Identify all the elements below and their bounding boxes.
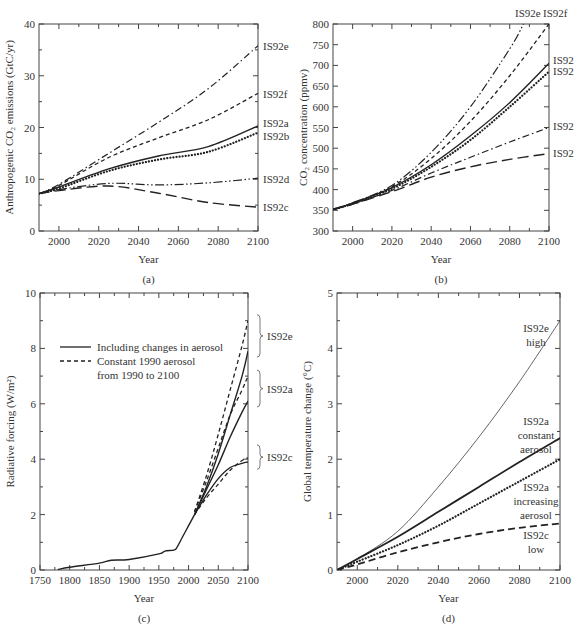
x-tick-label: 2000 [342, 235, 365, 247]
series-annotation: IS92a [523, 415, 549, 427]
x-tick-label: 2100 [549, 574, 572, 586]
x-tick-label: 2040 [420, 235, 443, 247]
panel-a-emissions-chart: 010203040200020202040206020802100Year(a)… [3, 18, 290, 286]
panel-c-radiative-forcing-chart: 024681017501800185019001950200020502100Y… [4, 287, 293, 625]
y-tick-label: 650 [313, 80, 330, 92]
y-axis-label: Anthropogenic CO₂ emissions (GtC/yr) [3, 40, 16, 215]
plot-frame [40, 293, 248, 570]
series-line-is92e [39, 46, 258, 194]
series-label: IS92 [553, 120, 574, 132]
series-label: IS92 [553, 147, 574, 159]
brace-icon [257, 445, 263, 469]
y-tick-label: 40 [24, 18, 36, 30]
x-tick-label: 2040 [128, 235, 151, 247]
y-tick-label: 30 [24, 70, 36, 82]
x-tick-label: 2100 [538, 235, 561, 247]
x-axis-label: Year [134, 592, 155, 604]
series-line-is92b [333, 72, 549, 210]
series-label: IS92f [543, 7, 568, 19]
y-tick-label: 600 [313, 101, 330, 113]
x-tick-label: 2000 [48, 235, 71, 247]
x-tick-label: 1950 [148, 574, 171, 586]
x-tick-label: 1750 [29, 574, 52, 586]
panel-d-temperature-chart: 012345200020202040206020802100Year(d)Glo… [301, 287, 572, 625]
series-line-is92e [333, 24, 523, 209]
series-line-is92d [333, 128, 549, 210]
series-line-is92c [333, 154, 549, 210]
x-tick-label: 2020 [88, 235, 111, 247]
series-label: IS92b [263, 130, 290, 142]
series-line-is92f [39, 93, 258, 193]
x-axis-label: Year [431, 253, 452, 265]
y-tick-label: 700 [313, 59, 330, 71]
y-tick-label: 2 [31, 509, 37, 521]
y-tick-label: 8 [31, 342, 37, 354]
series-label: IS92e [263, 40, 289, 52]
series-line-historical [58, 515, 195, 570]
series-label: IS92 [553, 65, 574, 77]
y-tick-label: 3 [328, 398, 334, 410]
y-tick-label: 0 [328, 564, 334, 576]
series-line-is92d [39, 178, 258, 194]
series-annotation: increasing [513, 495, 559, 507]
y-tick-label: 800 [313, 18, 330, 30]
x-tick-label: 2060 [167, 235, 190, 247]
x-tick-label: 2020 [387, 574, 410, 586]
series-annotation: low [528, 543, 545, 555]
y-tick-label: 4 [31, 453, 37, 465]
brace-label: IS92e [267, 330, 293, 342]
brace-label: IS92a [267, 383, 293, 395]
series-label: IS92c [263, 201, 289, 213]
series-annotation: aerosol [520, 443, 552, 455]
y-axis-label: CO₂ concentration (ppmv) [297, 69, 310, 186]
series-annotation: IS92c [523, 529, 549, 541]
x-tick-label: 2000 [178, 574, 201, 586]
y-tick-label: 2 [328, 453, 334, 465]
x-tick-label: 2080 [499, 235, 522, 247]
series-label: IS92d [263, 173, 290, 185]
brace-label: IS92c [267, 451, 293, 463]
x-tick-label: 2000 [346, 574, 369, 586]
y-tick-label: 10 [24, 173, 36, 185]
x-tick-label: 1850 [88, 574, 111, 586]
x-tick-label: 2020 [381, 235, 404, 247]
y-tick-label: 500 [313, 142, 330, 154]
x-axis-label: Year [438, 592, 459, 604]
legend-label: from 1990 to 2100 [97, 369, 180, 381]
y-tick-label: 1 [328, 509, 334, 521]
y-tick-label: 10 [25, 287, 37, 299]
x-tick-label: 2060 [468, 574, 491, 586]
x-tick-label: 2060 [459, 235, 482, 247]
y-tick-label: 750 [313, 39, 330, 51]
figure: 010203040200020202040206020802100Year(a)… [0, 0, 583, 631]
series-label: IS92a [263, 117, 289, 129]
series-line-is92f [333, 24, 549, 209]
plot-frame [39, 24, 258, 231]
panel-label: (c) [138, 612, 151, 625]
series-annotation: IS92a [523, 481, 549, 493]
series-annotation: constant [518, 429, 555, 441]
x-tick-label: 2100 [237, 574, 260, 586]
x-tick-label: 2080 [207, 235, 230, 247]
series-annotation: IS92e [523, 322, 549, 334]
brace-icon [257, 370, 263, 407]
series-line-is92a [333, 63, 549, 209]
series-annotation: high [526, 336, 546, 348]
y-tick-label: 300 [313, 225, 330, 237]
series-line-is92c-constant [195, 458, 248, 515]
panel-label: (d) [442, 612, 455, 625]
y-tick-label: 20 [24, 122, 36, 134]
y-axis-label: Global temperature change (°C) [301, 361, 314, 502]
panel-b-concentration-chart: 3003504004505005506006507007508002000202… [297, 7, 574, 286]
x-axis-label: Year [138, 253, 159, 265]
x-tick-label: 1900 [118, 574, 141, 586]
series-label: IS92f [263, 88, 288, 100]
legend-label: Constant 1990 aerosol [97, 355, 195, 367]
x-tick-label: 2100 [247, 235, 270, 247]
y-tick-label: 4 [328, 342, 334, 354]
panel-label: (b) [435, 273, 448, 286]
series-label: IS92e [515, 7, 541, 19]
x-tick-label: 2050 [207, 574, 230, 586]
y-tick-label: 5 [328, 287, 334, 299]
y-tick-label: 6 [31, 398, 37, 410]
